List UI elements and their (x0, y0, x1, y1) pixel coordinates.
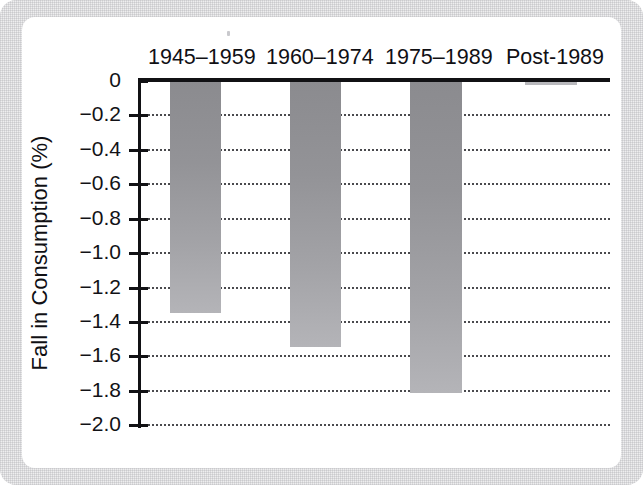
ytick-label-0: 0 (35, 69, 121, 90)
gridline--1.6 (145, 355, 610, 357)
ytick--1.0 (129, 252, 148, 255)
ytick--0.4 (129, 149, 148, 152)
bar-chart-plot: 1945–1959 1960–1974 1975–1989 Post-1989 (0, 0, 643, 485)
ytick-label--0.2: −0.2 (35, 103, 121, 124)
gridline--2.0 (145, 424, 610, 426)
gridline--1.4 (145, 321, 610, 323)
ytick--1.8 (129, 390, 148, 393)
ytick--0.6 (129, 183, 148, 186)
category-label-1960-1974: 1960–1974 (266, 47, 374, 69)
ytick--1.6 (129, 355, 148, 358)
bar-1945-1959 (170, 81, 221, 313)
ytick--0.2 (129, 114, 148, 117)
category-label-1945-1959: 1945–1959 (148, 47, 256, 69)
ytick--1.2 (129, 287, 148, 290)
scan-artifact-speck (227, 31, 230, 36)
ytick--1.4 (129, 321, 148, 324)
figure-frame: 1945–1959 1960–1974 1975–1989 Post-1989 (0, 0, 643, 485)
gridline--1.8 (145, 390, 610, 392)
ytick-0 (138, 80, 148, 83)
zero-axis-line (138, 78, 610, 82)
y-axis-title: Fall in Consumption (%) (27, 123, 53, 383)
category-label-post-1989: Post-1989 (506, 47, 604, 69)
category-label-1975-1989: 1975–1989 (385, 47, 493, 69)
ytick-label--2.0: −2.0 (35, 413, 121, 434)
ytick--0.8 (129, 218, 148, 221)
bar-1960-1974 (290, 81, 341, 347)
bar-1975-1989 (410, 81, 462, 393)
ytick--2.0 (129, 424, 148, 427)
